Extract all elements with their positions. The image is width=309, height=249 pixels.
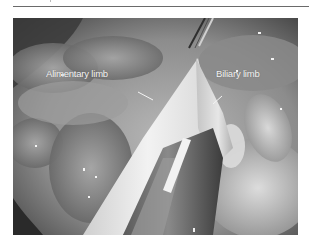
top-tick-mark [50, 0, 51, 2]
alimentary-limb-label: Alimentary limb [46, 68, 108, 79]
biliary-limb-label: Biliary limb [216, 68, 260, 79]
top-rule-divider [13, 6, 309, 7]
photo-rendering [13, 18, 298, 235]
surgical-photo [13, 18, 298, 235]
